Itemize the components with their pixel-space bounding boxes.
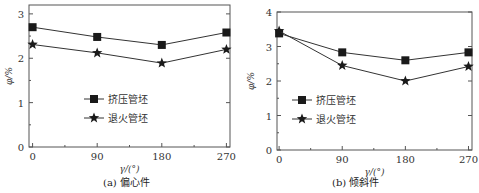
y-tick-label: 1: [266, 111, 272, 122]
data-point-marker: [401, 56, 409, 64]
y-tick-label: 4: [266, 7, 272, 18]
legend-label: 退火管坯: [108, 112, 148, 124]
data-point-marker: [93, 33, 101, 41]
x-tick-label: 0: [276, 154, 282, 165]
plot-frame: [29, 5, 230, 147]
x-tick-label: 270: [217, 151, 236, 162]
y-tick-label: 3: [18, 9, 24, 20]
chart-b-caption: (b) 倾斜件: [332, 174, 379, 189]
legend-label: 退火管坯: [316, 113, 356, 125]
data-point-marker: [400, 76, 411, 86]
y-axis-label: φ/%: [4, 67, 14, 85]
data-point-marker: [92, 47, 102, 57]
data-point-marker: [222, 29, 230, 37]
chart-b: 01234090180270γ/(°)φ/%挤压管坯退火管坯 (b) 倾斜件: [240, 0, 479, 193]
legend-label: 挤压管坯: [316, 94, 356, 106]
x-tick-label: 180: [396, 154, 415, 165]
x-tick-label: 0: [29, 151, 35, 162]
legend-label: 挤压管坯: [108, 93, 148, 105]
x-tick-label: 180: [152, 151, 171, 162]
y-tick-label: 0: [266, 145, 272, 156]
series-line-0: [33, 27, 227, 45]
y-tick-label: 0: [18, 142, 24, 153]
chart-a-caption: (a) 偏心件: [103, 174, 150, 189]
plot-frame: [277, 12, 472, 150]
y-tick-label: 2: [18, 53, 24, 64]
y-tick-label: 3: [266, 42, 272, 53]
data-point-marker: [464, 48, 472, 56]
x-tick-label: 90: [336, 154, 349, 165]
legend-marker: [90, 95, 98, 103]
legend-marker: [298, 96, 306, 104]
y-tick-label: 2: [266, 76, 272, 87]
chart-a-plot: 0123090180270γ/(°)φ/%挤压管坯退火管坯: [0, 0, 240, 193]
data-point-marker: [157, 58, 167, 68]
x-tick-label: 270: [459, 154, 478, 165]
x-tick-label: 90: [91, 151, 104, 162]
data-point-marker: [338, 48, 346, 56]
data-point-marker: [29, 23, 37, 31]
chart-a: 0123090180270γ/(°)φ/%挤压管坯退火管坯 (a) 偏心件: [0, 0, 240, 193]
x-axis-label: γ/(°): [120, 164, 140, 174]
legend-marker: [89, 113, 99, 123]
y-axis-label: φ/%: [246, 72, 256, 90]
legend-marker: [297, 114, 307, 124]
chart-b-plot: 01234090180270γ/(°)φ/%挤压管坯退火管坯: [240, 0, 479, 193]
y-tick-label: 1: [18, 98, 24, 109]
data-point-marker: [337, 60, 348, 70]
data-point-marker: [158, 41, 166, 49]
series-line-1: [33, 45, 227, 64]
